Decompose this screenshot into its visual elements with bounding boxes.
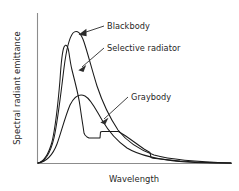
chart-figure: Blackbody Selective radiator Graybody Wa… [0, 0, 239, 191]
label-blackbody: Blackbody [107, 21, 150, 31]
arrow-head-selective-radiator [78, 65, 86, 72]
plot-area: Blackbody Selective radiator Graybody Wa… [0, 0, 239, 191]
leader-line-graybody [104, 97, 128, 119]
label-selective-radiator: Selective radiator [107, 43, 181, 53]
y-axis-title: Spectral radiant emittance [12, 31, 22, 145]
label-graybody: Graybody [131, 92, 171, 102]
arrow-head-blackbody [79, 29, 87, 37]
x-axis-title: Wavelength [109, 174, 159, 184]
curve-graybody [38, 95, 231, 163]
leader-line-selective-radiator [82, 48, 104, 67]
